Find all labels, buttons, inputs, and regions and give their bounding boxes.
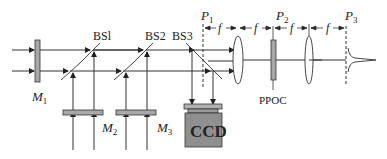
beam-splitters xyxy=(61,43,222,80)
mirror-m2 xyxy=(63,110,103,115)
label-f1: f xyxy=(218,21,223,35)
beam-splitter-bs1-upper xyxy=(80,43,100,63)
label-ccd: CCD xyxy=(190,122,227,141)
optical-setup-diagram: M1 M2 M3 BSl BS2 BS3 P1 P2 P3 f f f f PP… xyxy=(0,0,387,159)
input-beams xyxy=(12,50,34,71)
label-p3: P3 xyxy=(344,8,358,25)
label-p2: P2 xyxy=(275,8,288,25)
label-m3: M3 xyxy=(156,120,173,137)
lens-1 xyxy=(233,36,243,84)
label-bs2: BS2 xyxy=(145,29,166,43)
focal-distance-markers xyxy=(205,26,344,30)
label-ppoc: PPOC xyxy=(259,94,287,106)
label-bs1: BSl xyxy=(93,29,112,43)
label-m2: M2 xyxy=(101,120,117,137)
mirror-m3 xyxy=(116,110,156,115)
label-f3: f xyxy=(290,21,295,35)
label-f2: f xyxy=(254,21,259,35)
label-f4: f xyxy=(326,21,331,35)
ppoc-element xyxy=(271,40,276,80)
label-p1: P1 xyxy=(200,8,213,25)
label-m1: M1 xyxy=(31,89,47,106)
mirror-m1 xyxy=(35,40,40,82)
label-bs3: BS3 xyxy=(172,29,193,43)
output-peak xyxy=(348,48,376,72)
beam-splitter-bs2-upper xyxy=(133,43,153,63)
